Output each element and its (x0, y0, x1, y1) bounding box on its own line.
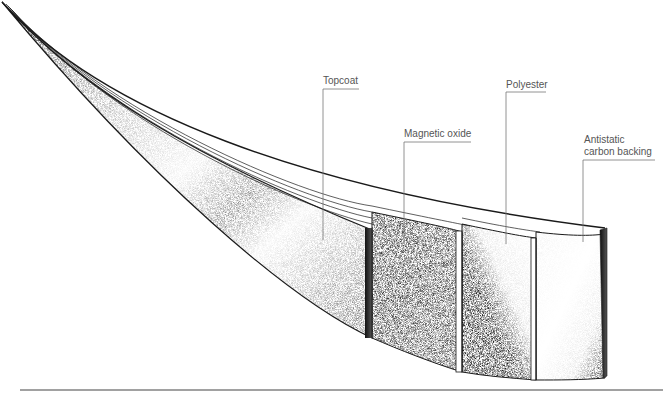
label-antistatic: Antistatic carbon backing (584, 134, 652, 158)
label-magnetic-oxide: Magnetic oxide (404, 128, 471, 140)
label-topcoat: Topcoat (323, 75, 358, 87)
leader-polyester (506, 92, 546, 244)
label-antistatic-line2: carbon backing (584, 146, 652, 158)
magnetic-oxide-layer (372, 206, 470, 372)
antistatic-backing-layer (536, 228, 607, 380)
label-polyester: Polyester (506, 79, 548, 91)
tape-layers-diagram (0, 0, 663, 395)
polyester-layer (462, 218, 540, 380)
leader-antistatic (583, 160, 655, 242)
label-antistatic-line1: Antistatic (584, 134, 652, 146)
